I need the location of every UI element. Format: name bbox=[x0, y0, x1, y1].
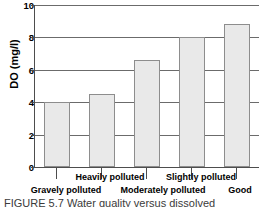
x-axis-line bbox=[31, 167, 259, 168]
x-label-good: Good bbox=[228, 185, 252, 195]
bar-heavily-polluted[interactable] bbox=[89, 94, 115, 167]
y-tick-mark-8 bbox=[31, 37, 35, 38]
gridline-10 bbox=[35, 5, 259, 6]
y-tick-mark-6 bbox=[31, 70, 35, 71]
figure-caption: FIGURE 5.7 Water quality versus dissolve… bbox=[4, 197, 215, 207]
x-label-slightly-polluted: Slightly polluted bbox=[166, 172, 236, 182]
x-tick-1 bbox=[56, 168, 57, 179]
y-tick-mark-2 bbox=[31, 135, 35, 136]
plot-area bbox=[34, 5, 258, 167]
x-label-heavily-polluted: Heavily polluted bbox=[75, 172, 144, 182]
y-tick-mark-10 bbox=[31, 5, 35, 6]
x-tick-3 bbox=[146, 168, 147, 179]
bar-gravely-polluted[interactable] bbox=[44, 102, 70, 167]
bar-good[interactable] bbox=[224, 24, 250, 167]
bar-slightly-polluted[interactable] bbox=[179, 37, 205, 167]
bar-moderately-polluted[interactable] bbox=[134, 60, 160, 167]
y-tick-mark-4 bbox=[31, 102, 35, 103]
x-label-moderately-polluted: Moderately polluted bbox=[120, 185, 205, 195]
x-label-gravely-polluted: Gravely polluted bbox=[31, 185, 102, 195]
figure-container: DO (mg/l) 10 8 6 4 2 0 Gravely polluted … bbox=[0, 0, 266, 207]
